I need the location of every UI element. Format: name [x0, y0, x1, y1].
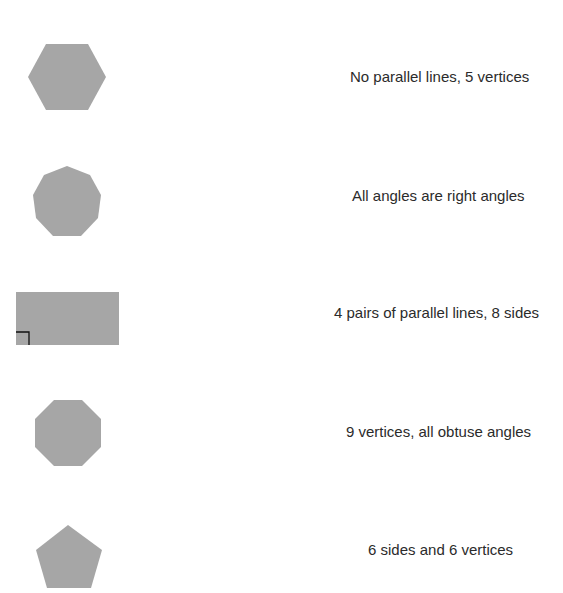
description-5[interactable]: 6 sides and 6 vertices — [368, 541, 513, 558]
hexagon-shape[interactable] — [26, 42, 108, 112]
octagon-shape[interactable] — [34, 399, 102, 467]
description-3[interactable]: 4 pairs of parallel lines, 8 sides — [334, 304, 539, 321]
description-2[interactable]: All angles are right angles — [352, 187, 525, 204]
description-4[interactable]: 9 vertices, all obtuse angles — [346, 423, 531, 440]
pentagon-shape[interactable] — [35, 524, 103, 590]
nonagon-shape[interactable] — [31, 164, 103, 239]
rectangle-shape[interactable] — [16, 292, 120, 347]
description-1[interactable]: No parallel lines, 5 vertices — [350, 68, 529, 85]
